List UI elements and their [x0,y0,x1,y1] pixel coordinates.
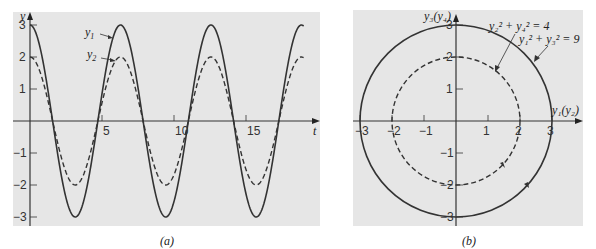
y1-axis-label: y₁(y₂) [551,103,579,117]
figure: 51015321−1−2−3 y t y1 y2 (a) −3−2−112332… [0,0,596,249]
x-tick-label: 10 [175,124,189,138]
panel-a-background [13,12,320,226]
y-tick-label: −3 [440,210,454,224]
x-tick-label: 1 [483,124,490,138]
caption-a: (a) [160,234,174,248]
x-tick-label: 15 [247,124,261,138]
x-tick-label: 5 [103,124,110,138]
x-tick-label: −2 [387,124,401,138]
x-tick-label: −1 [419,124,433,138]
y-tick-label: −2 [13,178,27,192]
y3-axis-label: y₃(y₄) [423,9,451,23]
y-tick-label: 2 [19,50,26,64]
outer-equation: y₁² + y₃² = 9 [518,32,579,46]
inner-equation: y₂² + y₄² = 4 [488,19,549,33]
x-tick-label: −3 [355,124,369,138]
x-tick-label: 3 [547,124,554,138]
y-tick-label: −1 [440,146,454,160]
y-tick-label: 1 [19,82,26,96]
caption-b: (b) [462,234,476,248]
y-tick-label: 2 [446,50,453,64]
y-tick-label: −2 [440,178,454,192]
panel-b: −3−2−1123321−1−2−3 y₃(y₄) y₁(y₂) y₂² + y… [353,9,583,248]
y-axis-label: y [19,9,26,23]
x-tick-label: 2 [515,124,522,138]
y-tick-label: −1 [13,146,27,160]
panel-a: 51015321−1−2−3 y t y1 y2 (a) [13,9,320,248]
y-tick-label: 1 [446,82,453,96]
y-tick-label: −3 [13,210,27,224]
